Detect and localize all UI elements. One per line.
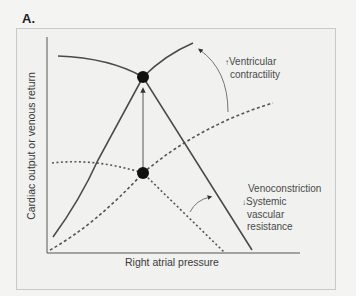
svr-annotation: ↓Systemic vascular resistance bbox=[242, 196, 293, 233]
venoconstriction-annotation: Venoconstriction bbox=[248, 183, 321, 195]
baseline-cardiac-function-curve bbox=[50, 103, 273, 250]
svr-shift-arrow bbox=[190, 197, 210, 212]
baseline-equilibrium-point bbox=[137, 167, 149, 179]
y-axis-label: Cardiac output or venous return bbox=[25, 72, 37, 220]
x-axis-label: Right atrial pressure bbox=[125, 256, 219, 268]
plot-area bbox=[0, 0, 356, 296]
shifted-venous-return-curve bbox=[58, 56, 252, 250]
new-equilibrium-point bbox=[137, 71, 149, 83]
contractility-annotation: ↑Ventricular contractility bbox=[225, 56, 280, 81]
increased-contractility-curve bbox=[53, 43, 193, 237]
contractility-shift-arrow bbox=[200, 50, 228, 112]
